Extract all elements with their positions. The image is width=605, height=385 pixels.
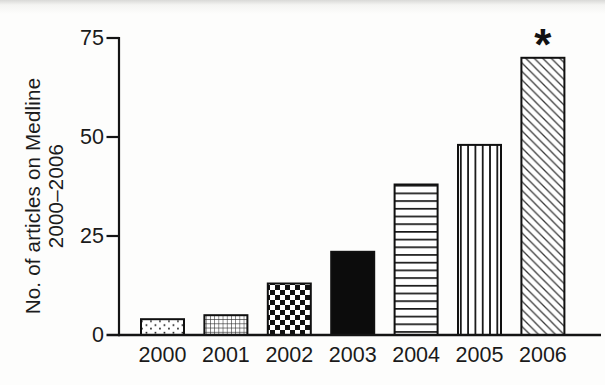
bar-2006 [521,58,564,335]
bar-2000 [141,319,184,335]
x-tick-label-2006: 2006 [511,343,575,367]
x-tick-label-2003: 2003 [321,343,385,367]
y-axis-title-line2: 2000–2006 [44,78,67,315]
bar-2005 [458,145,501,335]
chart-figure: No. of articles on Medline 2000–2006 * 2… [0,0,605,385]
y-axis-title: No. of articles on Medline 2000–2006 [21,78,67,315]
y-axis-title-line1: No. of articles on Medline [21,78,44,315]
x-tick-label-2002: 2002 [257,343,321,367]
bar-2003 [331,252,374,335]
y-tick-label-0: 0 [56,324,104,346]
bar-2002 [268,284,311,336]
significance-asterisk: * [511,23,575,67]
y-tick-label-25: 25 [56,225,104,247]
x-tick-label-2001: 2001 [194,343,258,367]
x-tick-label-2004: 2004 [384,343,448,367]
x-tick-label-2000: 2000 [131,343,195,367]
y-tick-label-75: 75 [56,27,104,49]
bar-2001 [204,315,247,335]
y-tick-label-50: 50 [56,126,104,148]
x-tick-label-2005: 2005 [448,343,512,367]
bar-2004 [395,185,438,336]
